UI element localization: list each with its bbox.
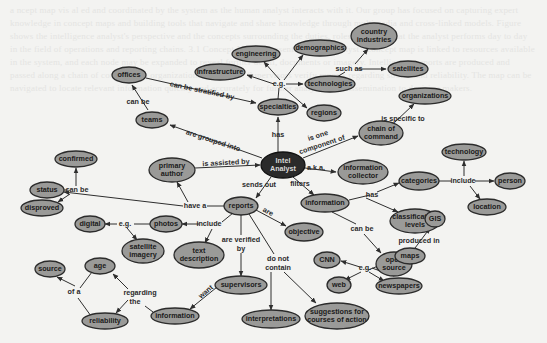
node-label: command (364, 132, 398, 141)
link-label-are-grouped-into: are grouped into (185, 127, 242, 153)
node-label: digital (79, 219, 100, 228)
node-label: organizations (402, 91, 449, 100)
node-photos: photos (150, 216, 182, 232)
link-label-do-not-contain: do not (267, 254, 290, 263)
link-label-can-be-status: can be (66, 185, 89, 194)
connector-line (64, 192, 183, 206)
connector-line (57, 277, 75, 286)
link-label-such-as: such as (336, 64, 363, 73)
node-label: age (94, 261, 106, 270)
connector-line (205, 229, 212, 243)
node-label: GIS (429, 214, 442, 223)
node-web: web (327, 277, 351, 293)
link-label-are-verified-by-2: by (237, 244, 245, 253)
node-information-lower: information (151, 308, 199, 324)
node-engineering: engineering (232, 46, 280, 62)
node-label: technology (445, 147, 483, 156)
connector-line (364, 234, 381, 253)
nodes-layer: IntelAnalystofficesteamsspecialtiesinfra… (21, 23, 525, 329)
node-label: reports (229, 201, 254, 210)
node-interpretations: interpretations (242, 310, 300, 328)
connector-line (278, 88, 279, 99)
connector-line (366, 198, 398, 212)
link-label-produced-in: produced in (398, 236, 439, 245)
node-label: industries (357, 35, 391, 44)
link-label-sends-out: sends out (242, 180, 277, 189)
link-label-filters: filters (290, 179, 310, 188)
node-demographics: demographics (294, 40, 346, 56)
link-label-can-be-open-source: can be (351, 224, 374, 233)
link-label-eg-open-source: e.g. (359, 263, 371, 272)
node-age: age (85, 258, 115, 274)
node-supervisors: supervisors (215, 276, 267, 294)
connector-line (470, 186, 480, 199)
node-reliability: reliability (82, 313, 128, 329)
node-label: status (36, 185, 57, 194)
node-specialties: specialties (258, 99, 298, 115)
connector-line (113, 274, 128, 289)
node-label: objective (288, 227, 319, 236)
node-label: courses of action (307, 315, 367, 324)
node-label: interpretations (246, 314, 296, 323)
connector-line (177, 182, 188, 202)
node-satellite-imagery: satelliteimagery (122, 239, 164, 263)
node-label: categories (401, 176, 437, 185)
node-analyst: IntelAnalyst (261, 152, 305, 178)
node-person: person (495, 173, 525, 189)
node-label: author (161, 169, 184, 178)
node-label: confirmed (59, 154, 94, 163)
node-information: information (301, 194, 349, 212)
node-organizations: organizations (399, 88, 451, 104)
link-label-is-assisted-by: is assisted by (202, 157, 250, 168)
node-label: Analyst (270, 164, 297, 173)
link-label-want: want (196, 282, 216, 300)
node-disproved: disproved (21, 200, 63, 216)
node-label: levels (405, 220, 425, 229)
connector-line (284, 55, 303, 80)
node-label: source (38, 264, 62, 273)
node-primary-author: primaryauthor (149, 158, 195, 182)
node-label: imagery (129, 250, 157, 259)
connector-line (80, 272, 92, 288)
link-label-include-categories: include (450, 176, 475, 185)
node-label: photos (154, 219, 178, 228)
link-label-are: are (261, 205, 275, 218)
link-label-has-information: has (366, 190, 378, 199)
node-label: supervisors (221, 280, 262, 289)
connector-line (78, 298, 91, 316)
node-categories: categories (399, 172, 439, 190)
node-label: newspapers (378, 281, 420, 290)
node-reports: reports (224, 197, 258, 215)
node-information-collector: informationcollector (338, 160, 388, 184)
connector-line (247, 75, 274, 84)
connector-line (222, 213, 233, 222)
node-suggestions: suggestions forcourses of action (305, 303, 369, 329)
connector-line (377, 183, 399, 192)
node-label: specialties (260, 102, 297, 111)
node-status: status (30, 182, 64, 198)
node-infrastructure: infrastructure (195, 64, 245, 80)
node-digital: digital (75, 216, 105, 232)
link-label-can-be-stratified-by: can be stratified by (169, 79, 235, 101)
concept-map-svg: can be stratified bycan bee.g.such asis … (0, 0, 547, 343)
connector-line (145, 306, 153, 312)
node-label: reliability (89, 316, 121, 325)
connector-line (116, 300, 128, 313)
node-label: source (382, 263, 406, 272)
node-label: technologies (308, 79, 352, 88)
link-label-can-be-teams: can be (127, 97, 150, 106)
node-teams: teams (136, 112, 168, 128)
node-gis: GIS (425, 211, 445, 227)
node-source: source (35, 261, 65, 277)
node-country-industries: countryindustries (351, 23, 397, 49)
link-label-of-a: of a (68, 287, 82, 296)
link-label-do-not-contain-2: contain (265, 263, 291, 272)
node-objective: objective (285, 223, 323, 241)
node-label: CNN (319, 255, 335, 264)
node-label: web (331, 280, 347, 289)
link-label-has-specialties: has (272, 130, 284, 139)
node-label: maps (401, 251, 420, 260)
node-label: information (305, 198, 345, 207)
link-label-aka: a.k.a. (307, 163, 325, 172)
node-chain-of-command: chain ofcommand (359, 121, 403, 145)
